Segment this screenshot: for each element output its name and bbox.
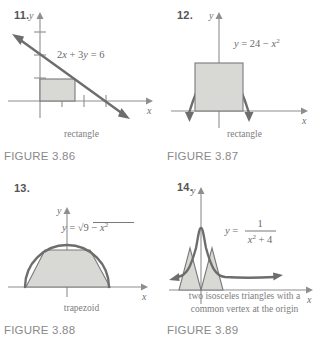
y-axis-arrowhead bbox=[216, 12, 223, 19]
equation-label-14: y = 1 x2 + 4 bbox=[224, 218, 276, 245]
figure-panel-11: 11. x y bbox=[0, 0, 163, 172]
figure-caption-14: FIGURE 3.89 bbox=[167, 324, 238, 336]
y-axis-arrowhead bbox=[64, 207, 71, 214]
parabola-arrowhead-right bbox=[245, 112, 254, 122]
figure-caption-12: FIGURE 3.87 bbox=[167, 150, 238, 162]
graph-13-semicircle-trapezoid: x y y = √9 − x2 bbox=[0, 172, 163, 344]
y-axis-arrowhead bbox=[198, 187, 205, 194]
equation-label-12: y = 24 − x2 bbox=[233, 37, 280, 49]
line-arrowhead-left bbox=[12, 34, 24, 45]
curve-arrowhead-right bbox=[273, 273, 283, 281]
y-axis-arrowhead bbox=[37, 12, 44, 19]
x-axis-label: x bbox=[301, 115, 307, 126]
figure-panel-13: 13. x y y = √9 − x2 trapezoid FIGURE 3.8… bbox=[0, 172, 163, 344]
equation-label-13: y = √9 − x2 bbox=[61, 221, 134, 233]
graph-12-parabola-rectangle: x y y = 24 − x2 bbox=[163, 0, 326, 172]
x-axis-arrowhead bbox=[146, 98, 153, 105]
y-axis-label: y bbox=[190, 185, 196, 196]
shape-label-12: rectangle bbox=[163, 129, 326, 139]
x-axis-label: x bbox=[141, 291, 147, 302]
figure-panel-14: 14. x y y = 1 x2 + 4 bbox=[163, 172, 326, 344]
shape-label-14-line1: two isosceles triangles with a bbox=[189, 291, 300, 301]
graph-14-bellcurve-triangles: x y y = 1 x2 + 4 bbox=[163, 172, 326, 344]
figure-panel-12: 12. x y y = 24 − x2 rectangle FIGURE 3.8… bbox=[163, 0, 326, 172]
parabola-arrowhead-left bbox=[185, 112, 194, 122]
figure-grid: 11. x y bbox=[0, 0, 327, 344]
inscribed-rectangle bbox=[195, 63, 243, 111]
shape-label-14: two isosceles triangles with a common ve… bbox=[163, 290, 326, 315]
y-axis-label: y bbox=[208, 10, 214, 21]
x-axis-arrowhead bbox=[301, 108, 308, 115]
figure-caption-13: FIGURE 3.88 bbox=[4, 324, 75, 336]
shape-label-14-line2: common vertex at the origin bbox=[191, 304, 299, 314]
equation-lhs-14: y = bbox=[224, 225, 238, 236]
inscribed-triangle-right bbox=[201, 248, 223, 290]
y-axis-label: y bbox=[28, 10, 34, 21]
curve-arrowhead-left bbox=[169, 273, 180, 281]
shape-label-13: trapezoid bbox=[0, 303, 163, 313]
inscribed-rectangle bbox=[40, 79, 75, 101]
line-arrowhead-right bbox=[118, 108, 130, 119]
y-axis-label: y bbox=[56, 205, 62, 216]
shape-label-11: rectangle bbox=[0, 129, 163, 139]
graph-11-line-rectangle: x y 2x + 3y = 6 bbox=[0, 0, 163, 172]
equation-label-11: 2x + 3y = 6 bbox=[57, 49, 104, 60]
inscribed-triangle-left bbox=[179, 248, 201, 290]
equation-denominator-14: x2 + 4 bbox=[247, 233, 273, 245]
x-axis-arrowhead bbox=[141, 284, 148, 291]
x-axis-label: x bbox=[146, 105, 152, 116]
figure-caption-11: FIGURE 3.86 bbox=[4, 150, 75, 162]
equation-numerator-14: 1 bbox=[257, 218, 262, 229]
